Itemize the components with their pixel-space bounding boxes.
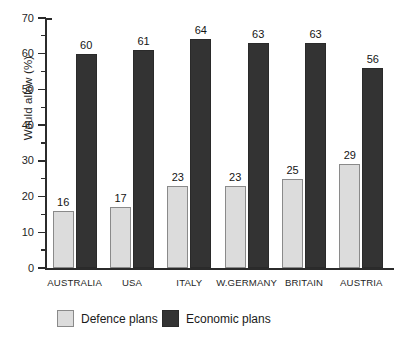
bar-value-label: 56 (356, 54, 389, 65)
y-tick-label: 70 (6, 13, 34, 24)
y-tick-label: 50 (6, 84, 34, 95)
bar-chart: Would allow (%) 010203040506070 16601761… (0, 0, 403, 343)
bar (339, 164, 360, 268)
y-tick-major (38, 17, 46, 19)
y-tick-major (38, 53, 46, 55)
y-tick-major (38, 89, 46, 91)
y-tick-major (38, 232, 46, 234)
bar (53, 211, 74, 268)
legend-label-defence: Defence plans (81, 312, 158, 326)
y-tick-major (38, 267, 46, 269)
y-tick-major (38, 124, 46, 126)
legend-item-defence-plans: Defence plans (57, 310, 158, 327)
bar-value-label: 60 (70, 40, 103, 51)
x-axis-line (45, 268, 394, 270)
x-axis-category-label: BRITAIN (285, 277, 323, 288)
bar (248, 43, 269, 268)
legend-label-economic: Economic plans (186, 312, 271, 326)
legend-item-economic-plans: Economic plans (162, 310, 271, 327)
y-tick-major (38, 160, 46, 162)
y-tick-label: 30 (6, 155, 34, 166)
bar (76, 54, 97, 268)
y-tick-major (38, 196, 46, 198)
chart-legend: Defence plans Economic plans (0, 308, 403, 338)
bar (305, 43, 326, 268)
legend-swatch-icon-economic (162, 310, 179, 327)
y-tick-label: 20 (6, 191, 34, 202)
y-tick-label: 10 (6, 227, 34, 238)
bar (190, 39, 211, 268)
bar (133, 50, 154, 268)
x-axis-category-label: AUSTRALIA (47, 277, 102, 288)
y-tick-label: 60 (6, 48, 34, 59)
plot-area: 166017612364236325632956 (46, 18, 390, 268)
x-axis-category-label: ITALY (176, 277, 202, 288)
y-tick-label: 40 (6, 120, 34, 131)
x-axis-category-label: USA (122, 277, 142, 288)
bar (167, 186, 188, 268)
x-axis-category-label: AUSTRIA (340, 277, 383, 288)
bar-value-label: 64 (184, 25, 217, 36)
bar (225, 186, 246, 268)
bar (362, 68, 383, 268)
bar-value-label: 63 (242, 29, 275, 40)
x-axis-category-label: W.GERMANY (216, 277, 277, 288)
bar (282, 179, 303, 268)
bar (110, 207, 131, 268)
y-tick-label: 0 (6, 263, 34, 274)
bar-value-label: 63 (299, 29, 332, 40)
legend-swatch-icon-defence (57, 310, 74, 327)
bar-value-label: 61 (127, 36, 160, 47)
